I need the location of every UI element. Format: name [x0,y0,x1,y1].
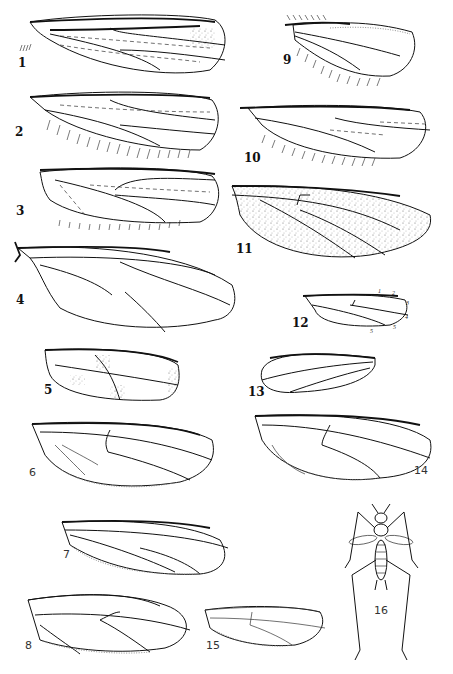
figure-plate: 1 2 3 4 5 6 7 8 9 10 11 12 13 14 15 16 1… [0,0,453,674]
figure-label-16: 16 [374,605,388,616]
vein-number-5b: 5 [370,328,373,334]
insect-fig-16 [345,504,418,660]
figure-label-6: 6 [29,467,36,478]
wing-fig-1 [20,15,225,73]
vein-number-5a: 5 [393,324,396,330]
figure-label-5: 5 [44,384,52,396]
wing-fig-6 [32,422,213,487]
wing-drawings [0,0,453,674]
figure-label-9: 9 [283,54,291,66]
figure-label-11: 11 [236,243,253,255]
figure-label-13: 13 [248,386,265,398]
wing-fig-12 [303,295,408,327]
wing-fig-13 [261,354,375,393]
wing-fig-11 [232,186,431,258]
figure-label-10: 10 [244,152,261,164]
wing-fig-10 [240,105,430,166]
wing-fig-2 [30,92,218,159]
figure-label-14: 14 [414,465,428,476]
figure-label-7: 7 [63,549,70,560]
figure-label-2: 2 [15,126,23,138]
vein-number-4: 4 [405,314,408,320]
wing-fig-15 [205,606,325,646]
wing-fig-14 [255,415,431,480]
vein-number-1: 1 [378,288,381,294]
figure-label-8: 8 [25,640,32,651]
wing-fig-3 [40,168,219,230]
vein-number-3: 3 [406,300,409,306]
figure-label-15: 15 [206,640,220,651]
wing-fig-7 [62,521,228,574]
wing-fig-5 [45,349,179,400]
wing-fig-9 [285,15,415,86]
wing-fig-8 [28,595,190,654]
figure-label-4: 4 [16,294,24,306]
figure-label-1: 1 [18,57,26,69]
vein-number-2: 2 [392,290,395,296]
figure-label-12: 12 [292,317,309,329]
figure-label-3: 3 [16,205,24,217]
wing-fig-4 [15,242,235,332]
